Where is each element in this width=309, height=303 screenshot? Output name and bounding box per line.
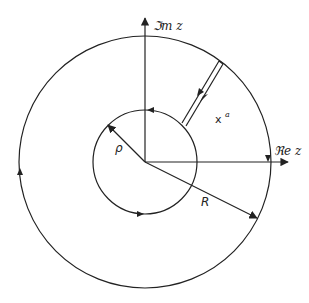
inner-arrow-top-icon bbox=[147, 107, 154, 113]
slit-arrow-inward-icon bbox=[197, 88, 204, 96]
contour-diagram: ℑm z ℜe z ρ R x a bbox=[0, 0, 309, 303]
R-label: R bbox=[201, 195, 209, 209]
point-label: x bbox=[215, 113, 222, 126]
outer-arrow-left-icon bbox=[17, 168, 23, 175]
point-superscript: a bbox=[225, 110, 230, 119]
outer-arrow-right-icon bbox=[265, 155, 271, 162]
outer-radius-arrow bbox=[145, 162, 257, 218]
real-axis-label: ℜe z bbox=[274, 144, 302, 158]
rho-label: ρ bbox=[115, 141, 123, 155]
inner-arrow-bottom-icon bbox=[137, 211, 144, 217]
imag-axis-label: ℑm z bbox=[153, 19, 183, 33]
inner-radius-arrow bbox=[108, 125, 145, 162]
